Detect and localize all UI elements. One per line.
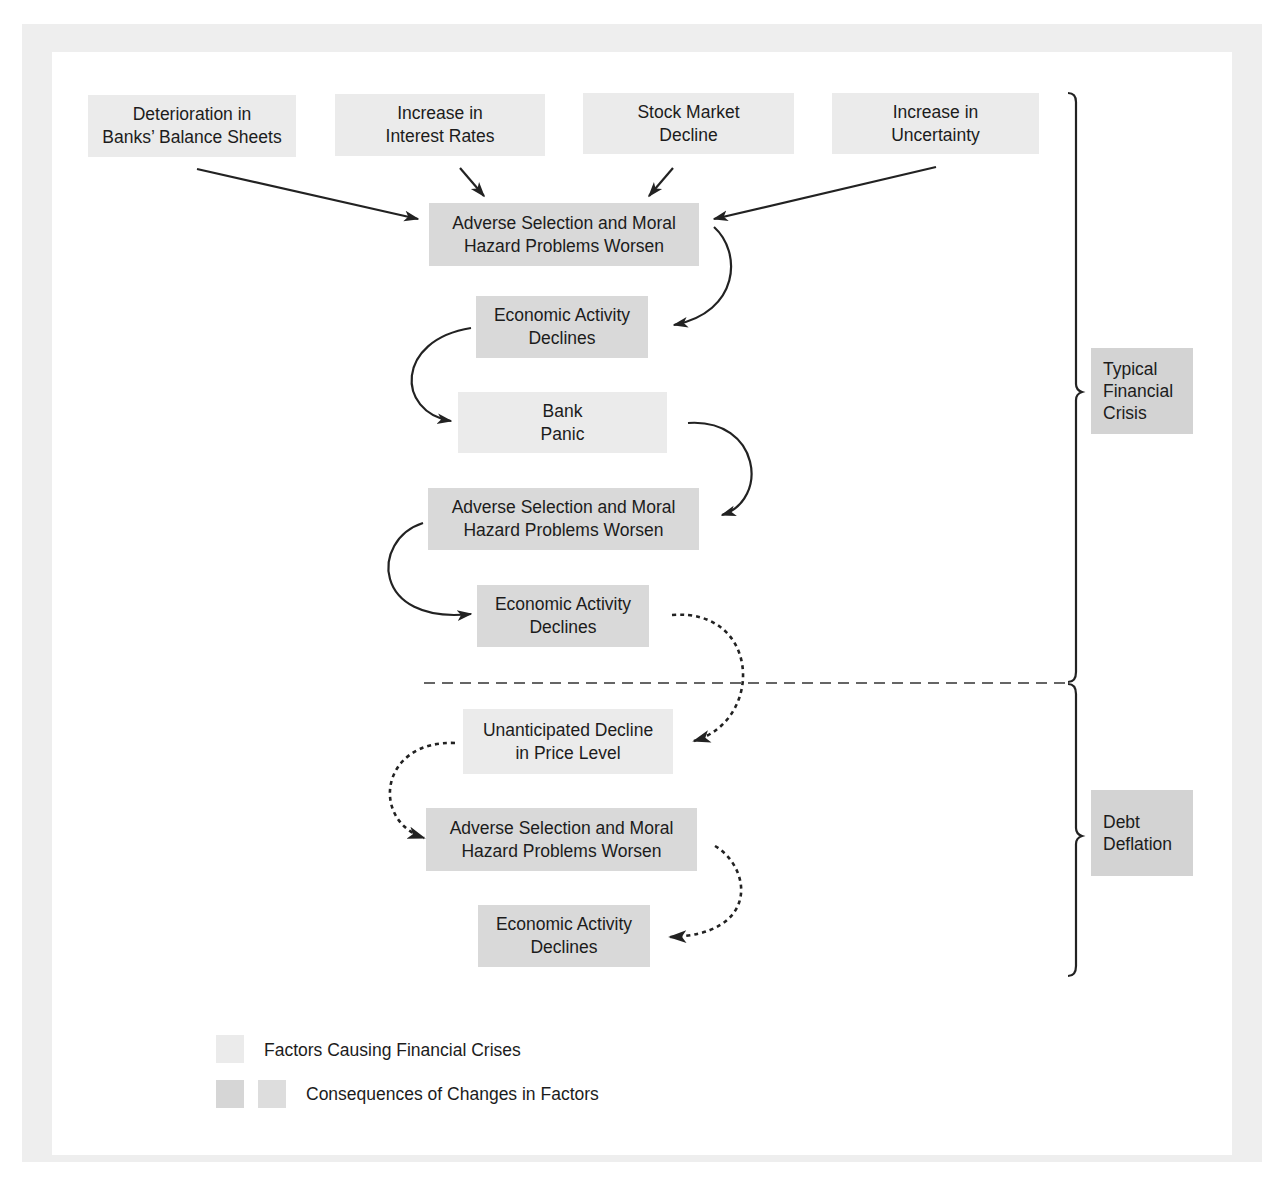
brace-typical-financial-crisis (1068, 93, 1082, 682)
legend-label-consequences: Consequences of Changes in Factors (306, 1084, 599, 1105)
legend-swatch-factors (216, 1035, 244, 1063)
arrow-factors-to-adverse-selection (197, 167, 936, 219)
legend-swatch-consequences-dark (216, 1080, 244, 1108)
connector-layer (0, 0, 1280, 1182)
solid-curved-arrows (388, 227, 751, 615)
legend-swatch-consequences-light (258, 1080, 286, 1108)
legend-label-factors: Factors Causing Financial Crises (264, 1040, 521, 1061)
brace-debt-deflation (1068, 684, 1082, 976)
dashed-curved-arrows (390, 615, 743, 937)
